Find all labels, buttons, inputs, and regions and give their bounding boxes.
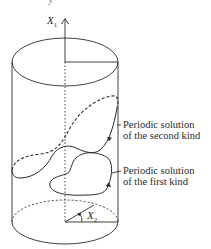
second-kind-arrow-icon — [108, 137, 112, 141]
first-kind-arrow-icon — [106, 183, 111, 188]
cylinder-bottom-front-arc — [12, 222, 118, 244]
second-kind-curve-front — [12, 108, 117, 178]
first-kind-leader — [112, 171, 121, 173]
first-kind-label-line2: of the first kind — [123, 176, 194, 187]
first-kind-label: Periodic solution of the first kind — [123, 165, 194, 187]
x1-axis-label: X1 — [47, 14, 57, 29]
second-kind-label-line2: of the second kind — [123, 130, 200, 141]
angle-arc — [80, 214, 82, 223]
second-kind-label-line1: Periodic solution — [123, 119, 200, 130]
second-kind-label: Periodic solution of the second kind — [123, 119, 200, 141]
first-kind-label-line1: Periodic solution — [123, 165, 194, 176]
first-kind-closed-curve — [50, 153, 112, 196]
x2-angle-label: X2 — [87, 209, 97, 224]
